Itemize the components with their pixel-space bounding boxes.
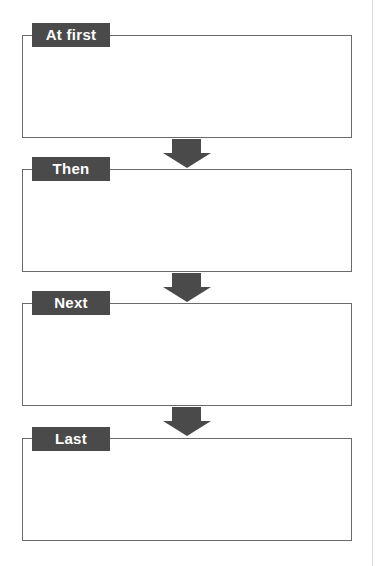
step-box-last[interactable] — [22, 438, 352, 541]
page-edge-line — [372, 0, 373, 566]
step-label-then: Then — [32, 157, 110, 181]
step-box-at-first[interactable] — [22, 35, 352, 138]
down-arrow-icon — [163, 407, 211, 437]
step-box-next[interactable] — [22, 303, 352, 406]
down-arrow-icon — [163, 139, 211, 169]
step-label-next: Next — [32, 291, 110, 315]
step-label-at-first: At first — [32, 23, 110, 47]
down-arrow-icon — [163, 273, 211, 303]
step-label-last: Last — [32, 427, 110, 451]
step-box-then[interactable] — [22, 169, 352, 272]
